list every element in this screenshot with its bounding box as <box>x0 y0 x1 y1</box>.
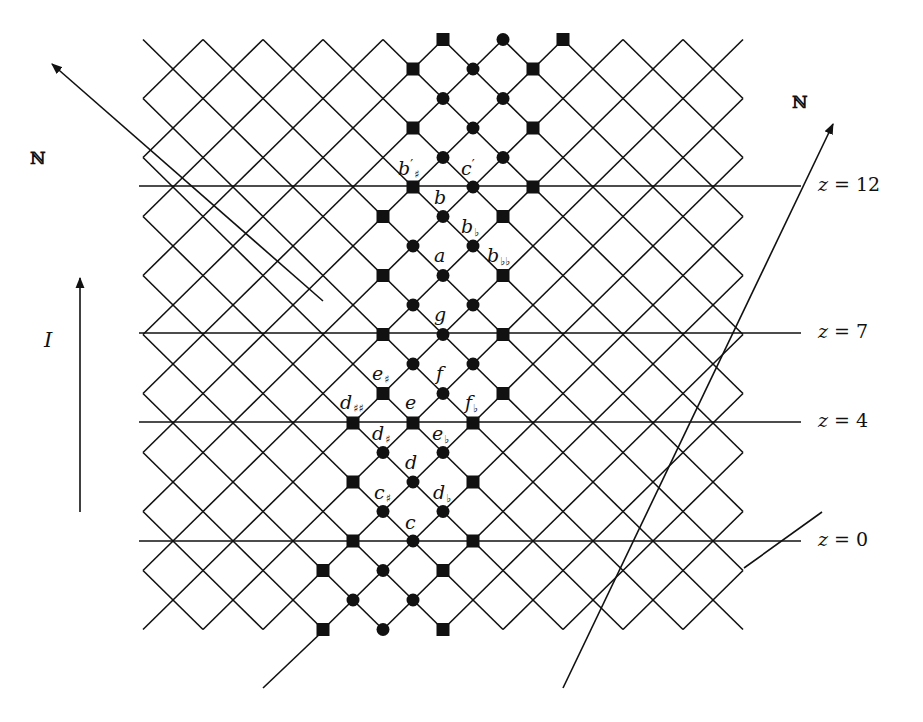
lattice-edge <box>143 364 173 394</box>
lattice-edge <box>563 128 593 158</box>
circle-marker <box>437 505 450 518</box>
circle-marker <box>467 181 480 194</box>
square-marker <box>407 181 420 194</box>
lattice-edge <box>563 482 593 512</box>
lattice-edge <box>203 128 233 158</box>
lattice-edge <box>173 364 203 394</box>
lattice-edge <box>653 394 683 424</box>
lattice-edge <box>653 158 683 188</box>
lattice-edge <box>683 364 713 394</box>
lattice-edge <box>593 453 623 483</box>
lattice-edge <box>203 600 233 630</box>
circle-marker <box>467 122 480 135</box>
lattice-edge <box>713 276 743 306</box>
lattice-edge <box>503 512 533 542</box>
lattice-edge <box>353 128 383 158</box>
lattice-edge <box>563 453 593 483</box>
lattice-edge <box>623 246 653 276</box>
lattice-edge <box>173 394 203 424</box>
circle-marker <box>407 535 420 548</box>
lattice-edge <box>683 69 713 99</box>
lattice-edge <box>173 512 203 542</box>
circle-marker <box>347 594 360 607</box>
lattice-edge <box>623 512 653 542</box>
lattice-edge <box>623 571 653 601</box>
lattice-edge <box>143 99 173 129</box>
lattice-edge <box>233 512 263 542</box>
square-marker <box>317 564 330 577</box>
circle-marker <box>407 358 420 371</box>
lattice-edge <box>653 335 683 365</box>
lattice-edge <box>203 335 233 365</box>
lattice-edge <box>563 364 593 394</box>
lattice-edge <box>593 482 623 512</box>
lattice-edge <box>263 128 293 158</box>
circle-marker <box>377 505 390 518</box>
lattice-edge <box>623 335 653 365</box>
lattice-edge <box>503 541 533 571</box>
circle-marker <box>377 564 390 577</box>
lattice-edge <box>683 158 713 188</box>
lattice-edge <box>683 453 713 483</box>
lattice-edge <box>203 512 233 542</box>
lattice-edge <box>233 246 263 276</box>
lattice-edge <box>683 571 713 601</box>
lattice-edge <box>533 305 563 335</box>
lattice-edge <box>623 453 653 483</box>
lattice-edge <box>293 128 323 158</box>
lattice-edge <box>323 187 353 217</box>
circle-marker <box>407 594 420 607</box>
note-label-e-sharp: e♯ <box>372 364 390 385</box>
lattice-edge <box>263 394 293 424</box>
lattice-edge <box>563 512 593 542</box>
lattice-edge <box>623 99 653 129</box>
z-level-label: z = 0 <box>818 530 868 549</box>
lattice-edge <box>683 99 713 129</box>
lattice-edge <box>683 335 713 365</box>
lattice-edge <box>713 217 743 247</box>
lattice-edge <box>473 600 503 630</box>
lattice-edge <box>143 512 173 542</box>
lattice-edge <box>623 394 653 424</box>
lattice-edge <box>533 512 563 542</box>
lattice-edge <box>503 571 533 601</box>
circle-marker <box>437 210 450 223</box>
lattice-edge <box>173 600 203 630</box>
lattice-edge <box>683 541 713 571</box>
lattice-edge <box>263 69 293 99</box>
square-marker <box>467 535 480 548</box>
lattice-edge <box>563 335 593 365</box>
circle-marker <box>437 92 450 105</box>
z-level-label: z = 7 <box>818 322 868 341</box>
lattice-edge <box>563 394 593 424</box>
lattice-edge <box>203 541 233 571</box>
lattice-edge <box>563 276 593 306</box>
circle-marker <box>407 240 420 253</box>
note-label-c-prime: c′ <box>461 158 475 178</box>
lattice-edge <box>653 305 683 335</box>
lattice-edge <box>623 276 653 306</box>
lattice-edge <box>233 128 263 158</box>
lattice-edge <box>713 187 743 217</box>
lattice-edge <box>233 335 263 365</box>
lattice-edge <box>203 158 233 188</box>
lattice-edge <box>293 69 323 99</box>
lattice-edge <box>203 482 233 512</box>
lattice-edge <box>143 482 173 512</box>
lattice-edge <box>203 305 233 335</box>
note-label-b-prime-sharp: b′♯ <box>398 158 419 180</box>
lattice-edge <box>593 246 623 276</box>
lattice-edge <box>713 99 743 129</box>
axis-extension-line <box>744 512 822 568</box>
lattice-edge <box>263 423 293 453</box>
lattice-edge <box>713 423 743 453</box>
lattice-edge <box>263 600 293 630</box>
lattice-edge <box>143 600 173 630</box>
lattice-edge <box>623 423 653 453</box>
circle-marker <box>437 328 450 341</box>
lattice-edge <box>293 364 323 394</box>
lattice-edge <box>323 276 353 306</box>
pitch-markers <box>317 33 570 636</box>
lattice-edge <box>683 394 713 424</box>
lattice-edge <box>293 482 323 512</box>
